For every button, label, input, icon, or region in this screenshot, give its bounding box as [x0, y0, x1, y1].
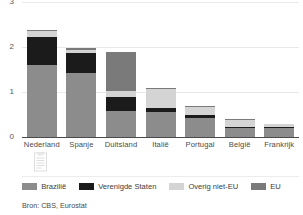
- bar-column[interactable]: [101, 0, 141, 137]
- bar-column[interactable]: [22, 0, 62, 137]
- document-watermark-icon: [33, 152, 48, 172]
- bar-group: [22, 0, 299, 137]
- x-axis-category-label: Duitsland: [101, 140, 141, 149]
- legend-item[interactable]: Overig niet-EU: [169, 182, 238, 191]
- legend-swatch-icon: [251, 183, 266, 190]
- bar-segment[interactable]: [146, 89, 176, 108]
- bar-segment[interactable]: [225, 120, 255, 128]
- bar-segment[interactable]: [66, 73, 96, 137]
- bar-column[interactable]: [259, 0, 299, 137]
- y-axis-tick-label: 1: [0, 88, 14, 96]
- stacked-bar-chart: 0123 NederlandSpanjeDuitslandItaliëPortu…: [0, 0, 303, 215]
- bar-segment[interactable]: [146, 112, 176, 137]
- legend-item-label: Verenigde Staten: [98, 182, 156, 191]
- bar-stack[interactable]: [264, 124, 294, 137]
- source-note: Bron: CBS, Eurostat: [22, 201, 87, 210]
- bar-segment[interactable]: [106, 111, 136, 138]
- bar-segment[interactable]: [225, 128, 255, 137]
- bar-segment[interactable]: [66, 53, 96, 73]
- bar-segment[interactable]: [106, 91, 136, 98]
- legend-item[interactable]: EU: [251, 182, 281, 191]
- bar-stack[interactable]: [66, 48, 96, 137]
- x-axis-category-label: België: [220, 140, 260, 149]
- bar-column[interactable]: [180, 0, 220, 137]
- y-axis-tick-label: 3: [0, 0, 14, 6]
- bar-stack[interactable]: [225, 119, 255, 137]
- bar-column[interactable]: [141, 0, 181, 137]
- legend-item[interactable]: Verenigde Staten: [79, 182, 156, 191]
- bar-stack[interactable]: [185, 106, 215, 137]
- y-axis-tick-label: 2: [0, 43, 14, 51]
- chart-legend: BraziliëVerenigde StatenOverig niet-EUEU: [0, 182, 303, 191]
- x-axis-category-label: Italië: [141, 140, 181, 149]
- bar-segment[interactable]: [27, 65, 57, 137]
- legend-item-label: EU: [270, 182, 281, 191]
- bar-column[interactable]: [220, 0, 260, 137]
- legend-item-label: Overig niet-EU: [188, 182, 238, 191]
- plot-area: 0123: [22, 0, 299, 138]
- legend-swatch-icon: [169, 183, 184, 190]
- bar-stack[interactable]: [106, 52, 136, 137]
- legend-item[interactable]: Brazilië: [22, 182, 66, 191]
- x-axis-category-label: Spanje: [62, 140, 102, 149]
- bar-segment[interactable]: [185, 107, 215, 115]
- bar-segment[interactable]: [264, 128, 294, 137]
- legend-swatch-icon: [22, 183, 37, 190]
- x-axis-category-label: Frankrijk: [259, 140, 299, 149]
- bar-segment[interactable]: [185, 118, 215, 137]
- legend-divider: [22, 176, 299, 177]
- bar-segment[interactable]: [106, 52, 136, 91]
- bar-column[interactable]: [62, 0, 102, 137]
- bar-segment[interactable]: [106, 97, 136, 110]
- y-axis-tick-label: 0: [0, 133, 14, 141]
- x-axis-category-labels: NederlandSpanjeDuitslandItaliëPortugalBe…: [22, 140, 299, 149]
- bar-segment[interactable]: [27, 37, 57, 65]
- x-axis-category-label: Nederland: [22, 140, 62, 149]
- legend-swatch-icon: [79, 183, 94, 190]
- x-axis-category-label: Portugal: [180, 140, 220, 149]
- bar-stack[interactable]: [146, 88, 176, 137]
- bar-stack[interactable]: [27, 30, 57, 137]
- legend-item-label: Brazilië: [41, 182, 66, 191]
